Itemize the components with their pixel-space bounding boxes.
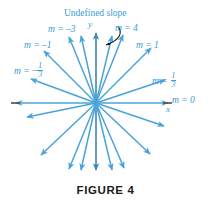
- ray-slope-neg-one-third: [31, 79, 96, 103]
- slope-label-neg-one-third-fraction: 13: [37, 62, 43, 79]
- slope-label-1: m = 1: [136, 41, 159, 51]
- slope-label-one-third-text: m =: [152, 76, 170, 86]
- slope-label-neg-1: m = –1: [24, 41, 52, 51]
- slope-label-4-text: m =: [115, 23, 133, 33]
- slope-label-0-text: m =: [172, 95, 190, 105]
- figure-4-diagram: Undefined slope y x m = –3m = 4m = –1m =…: [0, 0, 211, 213]
- figure-caption: FIGURE 4: [0, 184, 211, 196]
- slope-label-4: m = 4: [115, 24, 138, 34]
- slope-label-neg-1-value: –1: [42, 40, 52, 50]
- slope-label-1-value: 1: [154, 40, 159, 50]
- slope-label-neg-3-text: m =: [48, 24, 66, 34]
- ray-slope-neg-1-opposite: [96, 103, 150, 154]
- ray-slope-1-opposite: [41, 103, 96, 155]
- slope-label-neg-one-third-text: m =: [14, 66, 32, 76]
- slope-label-neg-one-third-denominator: 3: [37, 71, 43, 79]
- ray-slope-4-opposite: [69, 103, 96, 169]
- slope-label-one-third: m = 13: [152, 72, 176, 89]
- x-axis-label: x: [166, 105, 170, 114]
- ray-slope-neg-3-opposite: [96, 103, 112, 170]
- ray-slope-steep-positive-opposite: [81, 103, 96, 170]
- slope-label-4-value: 4: [133, 23, 138, 33]
- slope-label-neg-one-third: m = –13: [14, 62, 43, 79]
- ray-slope-neg-steep: [69, 37, 96, 103]
- y-axis-label: y: [88, 20, 92, 29]
- slope-label-0: m = 0: [172, 96, 195, 106]
- slope-rays-graphic: [0, 0, 211, 213]
- slope-label-0-value: 0: [190, 95, 195, 105]
- ray-slope-one-third-opposite: [27, 103, 96, 117]
- ray-slope-neg-one-third-opposite: [96, 103, 164, 126]
- slope-label-one-third-fraction: 13: [171, 72, 177, 89]
- slope-label-neg-3: m = –3: [48, 25, 76, 35]
- undefined-slope-label: Undefined slope: [64, 9, 127, 19]
- slope-label-1-text: m =: [136, 40, 154, 50]
- slope-label-neg-one-third-value: –: [32, 66, 37, 76]
- ray-slope-neg-3: [81, 36, 96, 103]
- slope-label-neg-1-text: m =: [24, 40, 42, 50]
- slope-label-one-third-denominator: 3: [171, 81, 177, 89]
- ray-slope-1: [96, 48, 151, 103]
- ray-slope-neg-1: [44, 51, 96, 103]
- ray-slope-neg-steep-opposite: [96, 103, 124, 168]
- slope-label-neg-3-value: –3: [66, 24, 76, 34]
